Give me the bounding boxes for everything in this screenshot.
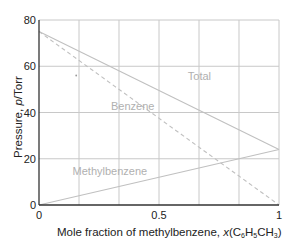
- marker-dot: [75, 75, 77, 77]
- y-tick-label: 20: [24, 153, 36, 165]
- y-tick-label: 60: [24, 60, 36, 72]
- x-axis-label: Mole fraction of methylbenzene, x(C6H5CH…: [57, 226, 282, 239]
- series-label-methylbenzene: Methylbenzene: [73, 165, 148, 177]
- vapor-pressure-chart: 02040608000.51 TotalBenzeneMethylbenzene…: [0, 0, 298, 243]
- y-axis-label: Pressure, p/Torr: [12, 76, 24, 158]
- x-tick-label: 1: [276, 209, 282, 221]
- series-label-benzene: Benzene: [111, 100, 154, 112]
- tick-labels: 02040608000.51: [24, 14, 282, 221]
- y-tick-label: 40: [24, 107, 36, 119]
- x-tick-label: 0.5: [151, 209, 166, 221]
- series-labels: TotalBenzeneMethylbenzene: [73, 70, 211, 177]
- y-tick-label: 80: [24, 14, 36, 26]
- series-label-total: Total: [188, 70, 211, 82]
- x-tick-label: 0: [36, 209, 42, 221]
